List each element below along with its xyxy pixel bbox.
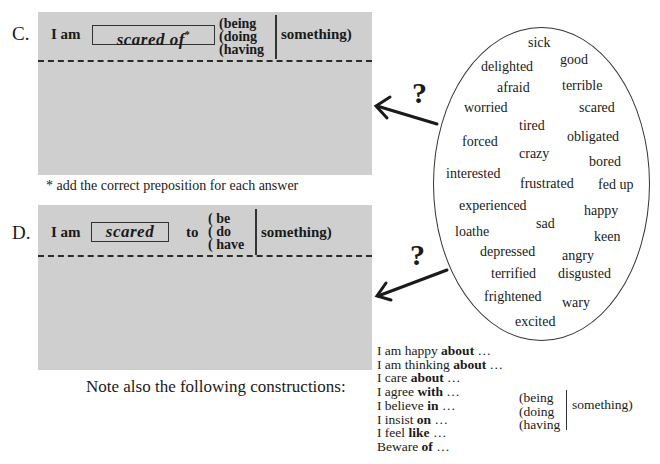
construction-verb-options: (being (doing (having bbox=[519, 391, 560, 432]
construction-item: I am thinking about … bbox=[377, 358, 503, 372]
word: delighted bbox=[481, 59, 533, 75]
word: interested bbox=[446, 166, 500, 182]
word: terrified bbox=[491, 266, 536, 282]
word: frightened bbox=[484, 289, 542, 305]
word: obligated bbox=[567, 129, 619, 145]
question-mark-icon: ? bbox=[410, 238, 425, 272]
word: keen bbox=[594, 229, 620, 245]
construction-item: I insist on … bbox=[377, 413, 503, 427]
word: worried bbox=[464, 100, 508, 116]
word: scared bbox=[579, 100, 615, 116]
word: terrible bbox=[562, 78, 602, 94]
word: depressed bbox=[480, 244, 535, 260]
word: frustrated bbox=[520, 176, 574, 192]
word: tired bbox=[519, 118, 545, 134]
word: afraid bbox=[497, 80, 530, 96]
word: excited bbox=[515, 314, 555, 330]
arrow-to-d bbox=[378, 270, 447, 296]
word: disgusted bbox=[558, 266, 611, 282]
word: good bbox=[560, 52, 588, 68]
word: fed up bbox=[598, 177, 633, 193]
construction-item: I am happy about … bbox=[377, 344, 503, 358]
construction-item: Beware of … bbox=[377, 440, 503, 454]
construction-item: I agree with … bbox=[377, 385, 503, 399]
construction-object: something) bbox=[572, 397, 633, 413]
verb-having: (having bbox=[519, 418, 560, 432]
construction-item: I care about … bbox=[377, 371, 503, 385]
word: sad bbox=[536, 216, 555, 232]
word: crazy bbox=[519, 146, 549, 162]
construction-item: I feel like … bbox=[377, 426, 503, 440]
verb-doing: (doing bbox=[519, 405, 560, 419]
construction-item: I believe in … bbox=[377, 399, 503, 413]
word: happy bbox=[584, 203, 618, 219]
word: bored bbox=[589, 154, 621, 170]
word: forced bbox=[462, 134, 498, 150]
question-mark-icon: ? bbox=[412, 76, 427, 110]
word: loathe bbox=[455, 224, 489, 240]
divider bbox=[566, 390, 567, 430]
verb-being: (being bbox=[519, 391, 560, 405]
word: experienced bbox=[459, 198, 527, 214]
word: sick bbox=[528, 35, 551, 51]
constructions-list: I am happy about … I am thinking about …… bbox=[377, 344, 503, 454]
word: wary bbox=[562, 295, 590, 311]
word: angry bbox=[562, 248, 594, 264]
